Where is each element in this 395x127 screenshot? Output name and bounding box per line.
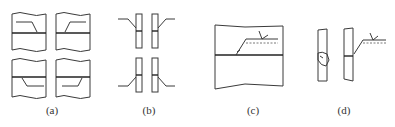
diagram-canvas <box>0 0 395 127</box>
panel-a-view-4 <box>56 59 90 99</box>
panel-d-label: (d) <box>338 104 351 116</box>
panel-a <box>12 13 90 99</box>
panel-c-label: (c) <box>247 104 259 116</box>
panel-b-label: (b) <box>143 104 156 116</box>
panel-a-label: (a) <box>46 104 58 116</box>
panel-a-view-1 <box>12 13 46 52</box>
panel-c <box>215 25 283 89</box>
panel-a-view-3 <box>12 59 46 99</box>
panel-d <box>318 28 386 81</box>
panel-a-view-2 <box>56 13 90 52</box>
panel-b <box>118 14 175 92</box>
